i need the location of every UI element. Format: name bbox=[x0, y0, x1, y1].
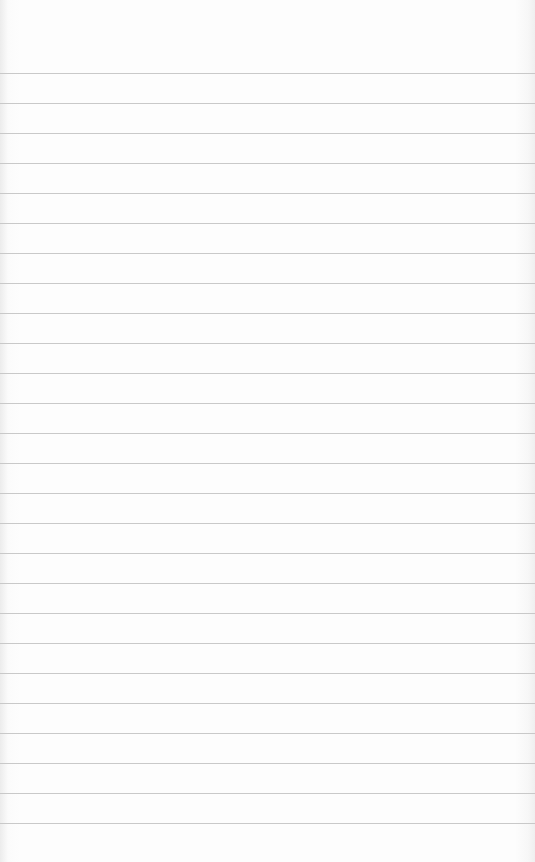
ruled-line bbox=[0, 643, 535, 644]
ruled-line bbox=[0, 433, 535, 434]
ruled-line bbox=[0, 223, 535, 224]
ruled-line bbox=[0, 703, 535, 704]
ruled-line bbox=[0, 133, 535, 134]
ruled-line bbox=[0, 733, 535, 734]
ruled-line bbox=[0, 793, 535, 794]
ruled-line bbox=[0, 163, 535, 164]
ruled-line bbox=[0, 313, 535, 314]
ruled-line bbox=[0, 463, 535, 464]
ruled-line bbox=[0, 493, 535, 494]
ruled-line bbox=[0, 403, 535, 404]
ruled-line bbox=[0, 763, 535, 764]
ruled-line bbox=[0, 73, 535, 74]
ruled-line bbox=[0, 583, 535, 584]
ruled-line bbox=[0, 343, 535, 344]
ruled-line bbox=[0, 103, 535, 104]
ruled-line bbox=[0, 613, 535, 614]
ruled-line bbox=[0, 823, 535, 824]
ruled-line bbox=[0, 253, 535, 254]
ruled-line bbox=[0, 553, 535, 554]
ruled-line bbox=[0, 283, 535, 284]
ruled-line bbox=[0, 523, 535, 524]
ruled-line bbox=[0, 373, 535, 374]
lined-paper bbox=[0, 0, 535, 862]
ruled-line bbox=[0, 193, 535, 194]
ruled-line bbox=[0, 673, 535, 674]
